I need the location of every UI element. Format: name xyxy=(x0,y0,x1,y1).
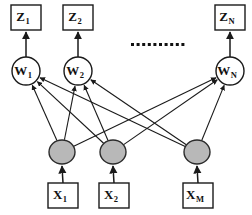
edge-hidden3-to-w1 xyxy=(40,78,186,147)
edge-hidden2-to-w3 xyxy=(123,80,217,145)
hidden-layer xyxy=(49,140,210,164)
edge-hidden1-to-w1 xyxy=(32,85,57,140)
edge-x1-to-hidden1 xyxy=(62,166,63,183)
output-node-z2: Z2 xyxy=(63,5,93,30)
output-node-zn: ZN xyxy=(215,5,245,30)
edge-hidden1-to-w2 xyxy=(64,86,75,140)
edge-hidden3-to-w3 xyxy=(202,85,224,140)
network-diagram: W1W2WN Z1Z2ZN X1X2XM xyxy=(0,0,252,215)
edge-hidden2-to-w2 xyxy=(84,85,108,140)
edges-hidden-to-weight xyxy=(32,78,224,147)
ellipsis-dot xyxy=(181,43,184,46)
edges-input-to-hidden xyxy=(62,166,198,183)
ellipsis-dot xyxy=(131,43,134,46)
edge-x2-to-hidden2 xyxy=(113,166,114,183)
weight-node-w2: W2 xyxy=(64,57,92,85)
hidden-node-1 xyxy=(49,140,75,164)
ellipsis-dot xyxy=(159,43,162,46)
edge-hidden1-to-w3 xyxy=(73,78,216,147)
weight-node-wn: WN xyxy=(216,57,244,85)
edge-x3-to-hidden3 xyxy=(197,166,198,183)
ellipsis xyxy=(131,43,184,46)
diagram-canvas: W1W2WN Z1Z2ZN X1X2XM xyxy=(0,0,252,215)
ellipsis-dot xyxy=(170,43,173,46)
hidden-node-2 xyxy=(100,140,126,164)
weight-node-w1: W1 xyxy=(12,57,40,85)
output-layer: Z1Z2ZN xyxy=(11,5,245,30)
ellipsis-dot xyxy=(165,43,168,46)
input-layer: X1X2XM xyxy=(48,183,213,208)
output-node-z1: Z1 xyxy=(11,5,41,30)
ellipsis-dot xyxy=(153,43,156,46)
ellipsis-dot xyxy=(176,43,179,46)
hidden-node-3 xyxy=(184,140,210,164)
ellipsis-dot xyxy=(137,43,140,46)
input-node-x2: X2 xyxy=(99,183,129,208)
edges-weight-to-output xyxy=(26,32,230,57)
input-node-x1: X1 xyxy=(48,183,78,208)
input-node-xm: XM xyxy=(183,183,213,208)
ellipsis-dot xyxy=(148,43,151,46)
ellipsis-dot xyxy=(142,43,145,46)
edge-hidden2-to-w1 xyxy=(37,82,104,144)
